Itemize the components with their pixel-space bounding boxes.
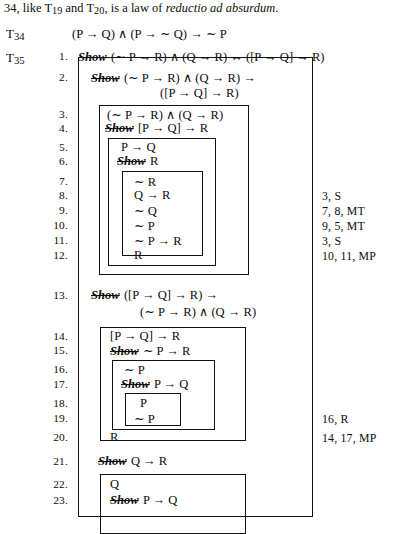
line-formula-continuation: (∼ P → R) ∧ (Q → R) bbox=[140, 304, 256, 320]
line-formula: Q bbox=[110, 477, 119, 492]
line-formula: R bbox=[134, 248, 142, 263]
formula-text: P → Q bbox=[154, 377, 189, 391]
formula-text: (∼ P → R) ∧ (Q → R) ↔ ([P → Q] → R) bbox=[111, 50, 325, 64]
show-marker: Show bbox=[117, 154, 147, 168]
show-marker: Show bbox=[91, 71, 121, 85]
line-number: 6. bbox=[8, 155, 68, 167]
line-formula: ∼ P bbox=[134, 218, 155, 234]
formula-text: Q → R bbox=[131, 454, 167, 468]
line-number: 13. bbox=[8, 289, 68, 301]
line-formula: R bbox=[110, 430, 118, 445]
line-formula: [P → Q] → R bbox=[110, 329, 180, 344]
line-formula: Show [P → Q] → R bbox=[105, 121, 208, 136]
line-justification: 9, 5, MT bbox=[322, 219, 365, 234]
line-number: 7. bbox=[8, 175, 68, 187]
line-formula: Show R bbox=[117, 154, 158, 169]
line-number: 16. bbox=[8, 363, 68, 375]
line-formula: ∼ P → R bbox=[134, 233, 182, 249]
show-marker: Show bbox=[110, 344, 140, 358]
line-justification: 10, 11, MP bbox=[322, 249, 376, 264]
line-number: 11. bbox=[8, 234, 68, 246]
line-formula: Show ∼ P → R bbox=[110, 343, 190, 359]
formula-text: [P → Q] → R bbox=[138, 121, 208, 135]
line-formula: Show ([P → Q] → R) → bbox=[91, 288, 218, 303]
line-formula: Show P → Q bbox=[110, 493, 177, 508]
line-justification: 7, 8, MT bbox=[322, 204, 365, 219]
show-marker: Show bbox=[121, 377, 151, 391]
formula-text: (∼ P → R) ∧ (Q → R) → bbox=[124, 71, 256, 85]
line-number: 15. bbox=[8, 344, 68, 356]
formula-text: R bbox=[150, 154, 158, 168]
line-number: 19. bbox=[8, 412, 68, 424]
line-number: 8. bbox=[8, 189, 68, 201]
line-formula: ∼ P bbox=[134, 411, 155, 427]
line-formula: Show (∼ P → R) ∧ (Q → R) → bbox=[91, 70, 256, 86]
line-formula: P → Q bbox=[121, 140, 156, 155]
line-justification: 3, S bbox=[322, 189, 341, 204]
line-number: 21. bbox=[8, 455, 68, 467]
show-marker: Show bbox=[78, 50, 108, 64]
line-number: 14. bbox=[8, 330, 68, 342]
line-justification: 3, S bbox=[322, 234, 341, 249]
line-formula: ∼ Q bbox=[134, 203, 157, 219]
show-marker: Show bbox=[110, 493, 140, 507]
line-number: 17. bbox=[8, 378, 68, 390]
line-formula: Show (∼ P → R) ∧ (Q → R) ↔ ([P → Q] → R) bbox=[78, 49, 325, 65]
line-number: 3. bbox=[8, 108, 68, 120]
line-number: 18. bbox=[8, 397, 68, 409]
formula-text: ∼ P → R bbox=[143, 344, 191, 358]
line-justification: 14, 17, MP bbox=[322, 431, 376, 446]
line-number: 1. bbox=[8, 50, 68, 62]
line-formula: Show P → Q bbox=[121, 377, 188, 392]
line-number: 22. bbox=[8, 478, 68, 490]
line-number: 10. bbox=[8, 219, 68, 231]
show-marker: Show bbox=[91, 288, 121, 302]
line-formula: Show Q → R bbox=[98, 454, 167, 469]
line-number: 20. bbox=[8, 431, 68, 443]
show-marker: Show bbox=[105, 121, 135, 135]
line-justification: 16, R bbox=[322, 412, 349, 427]
line-number: 12. bbox=[8, 249, 68, 261]
formula-text: ([P → Q] → R) → bbox=[124, 288, 218, 302]
formula-text: P → Q bbox=[143, 493, 178, 507]
line-formula: P bbox=[140, 396, 147, 411]
line-number: 23. bbox=[8, 494, 68, 506]
line-number: 5. bbox=[8, 141, 68, 153]
line-number: 9. bbox=[8, 204, 68, 216]
line-number: 4. bbox=[8, 122, 68, 134]
show-marker: Show bbox=[98, 454, 128, 468]
line-formula: Q → R bbox=[134, 188, 170, 203]
line-number: 2. bbox=[8, 71, 68, 83]
line-formula: ∼ P bbox=[124, 362, 145, 378]
line-formula-continuation: ([P → Q] → R) bbox=[160, 86, 239, 101]
